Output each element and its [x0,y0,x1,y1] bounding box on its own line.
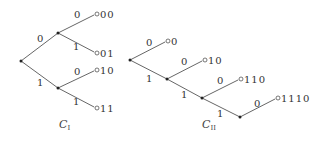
internal-node [20,60,23,63]
code-tree-diagram: 01010100011011 01010100101101110 CI CII [0,0,323,141]
codeword-label: 10 [100,65,115,76]
codeword-label: 0 [171,36,178,47]
leaf-node-icon [95,68,99,72]
leaf-node-icon [95,12,99,16]
codeword-label: 01 [100,48,115,59]
tree-c1: 01010100011011 [20,9,115,114]
edge-label: 0 [74,66,80,77]
edge-label: 1 [181,89,187,100]
leaf-node-icon [276,96,280,100]
internal-node [166,78,169,81]
codeword-label: 00 [100,9,115,20]
codeword-label: 10 [208,55,223,66]
caption-c1: CI [59,118,70,132]
edge-label: 1 [73,41,79,52]
leaf-node-icon [95,51,99,55]
edge-label: 0 [146,37,152,48]
leaf-node-icon [203,58,207,62]
leaf-node-icon [239,77,243,81]
internal-node [57,87,60,90]
internal-node [57,32,60,35]
codeword-label: 11 [100,103,115,114]
leaf-node-icon [166,39,170,43]
internal-node [239,116,242,119]
internal-node [201,97,204,100]
edge-label: 0 [74,9,80,20]
tree-c2: 01010100101101110 [129,36,311,120]
edge-label: 1 [37,77,43,88]
codeword-label: 1110 [281,93,310,104]
caption-c2: CII [202,118,216,132]
internal-node [129,59,132,62]
edge-label: 0 [181,56,187,67]
edge-label: 0 [217,75,223,86]
edge-label: 1 [217,108,223,119]
edge-label: 1 [146,73,152,84]
edge-label: 0 [37,33,43,44]
codeword-label: 110 [244,74,266,85]
edge-label: 0 [254,98,260,109]
leaf-node-icon [95,106,99,110]
edge-label: 1 [73,96,79,107]
